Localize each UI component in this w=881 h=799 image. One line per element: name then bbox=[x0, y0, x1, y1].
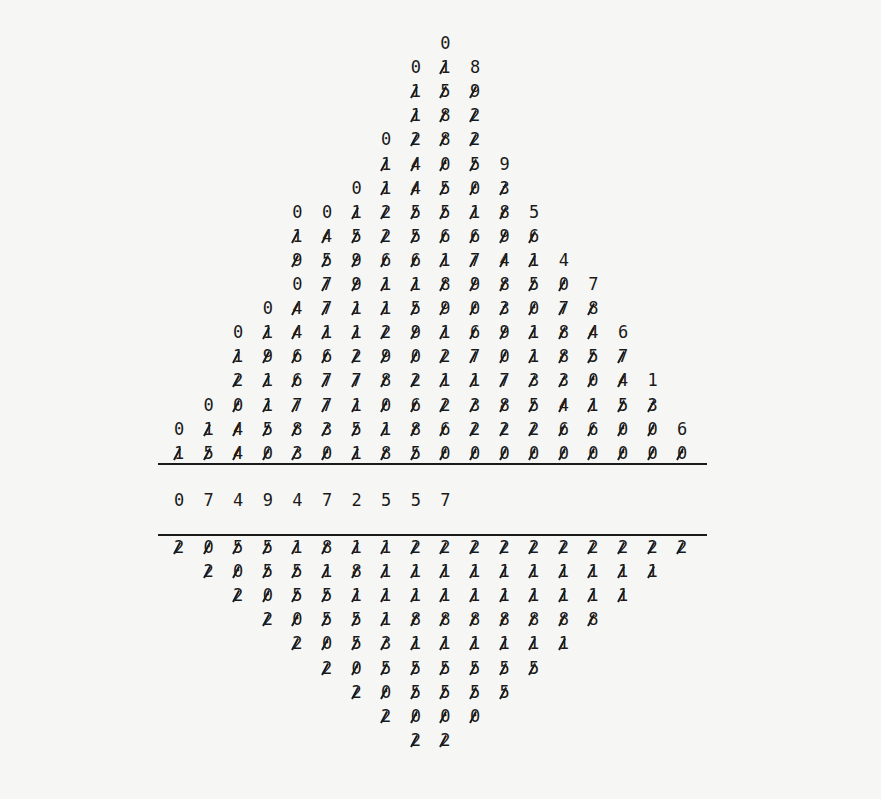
divisor-row-digit: 8 bbox=[406, 608, 426, 630]
dividend-row-digit: 4 bbox=[554, 394, 574, 416]
divisor-row-digit: 0 bbox=[376, 681, 396, 703]
dividend-row-digit: 0 bbox=[406, 345, 426, 367]
dividend-row-digit: 5 bbox=[524, 201, 544, 223]
divisor-row-digit: 1 bbox=[495, 584, 515, 606]
divisor-row-digit: 2 bbox=[169, 536, 189, 558]
dividend-row-digit: 1 bbox=[376, 418, 396, 440]
dividend-row-digit: 5 bbox=[258, 418, 278, 440]
divisor-row-digit: 8 bbox=[465, 608, 485, 630]
dividend-row-digit: 2 bbox=[465, 104, 485, 126]
divisor-row-digit: 1 bbox=[465, 584, 485, 606]
dividend-row-digit: 1 bbox=[376, 273, 396, 295]
divisor-row-digit: 2 bbox=[495, 536, 515, 558]
dividend-row-digit: 1 bbox=[435, 56, 455, 78]
divisor-row-digit: 5 bbox=[376, 657, 396, 679]
dividend-row-digit: 8 bbox=[406, 418, 426, 440]
dividend-row-digit: 0 bbox=[199, 394, 219, 416]
divisor-row-digit: 0 bbox=[465, 705, 485, 727]
dividend-row-digit: 8 bbox=[554, 321, 574, 343]
dividend-row-digit: 9 bbox=[465, 80, 485, 102]
dividend-row-digit: 1 bbox=[199, 418, 219, 440]
dividend-row-digit: 8 bbox=[435, 273, 455, 295]
dividend-row-digit: 3 bbox=[495, 297, 515, 319]
divisor-row-digit: 5 bbox=[495, 657, 515, 679]
dividend-row-digit: 6 bbox=[406, 394, 426, 416]
dividend-row-digit: 9 bbox=[287, 249, 307, 271]
divisor-row-digit: 8 bbox=[347, 560, 367, 582]
divisor-row-digit: 1 bbox=[613, 560, 633, 582]
dividend-row-digit: 0 bbox=[465, 442, 485, 464]
divisor-row-digit: 1 bbox=[317, 560, 337, 582]
dividend-row-digit: 0 bbox=[258, 442, 278, 464]
dividend-row-digit: 9 bbox=[406, 321, 426, 343]
dividend-row-digit: 8 bbox=[495, 394, 515, 416]
dividend-row-digit: 0 bbox=[406, 56, 426, 78]
dividend-row-digit: 5 bbox=[406, 297, 426, 319]
divisor-row-digit: 5 bbox=[435, 681, 455, 703]
dividend-row-digit: 8 bbox=[435, 104, 455, 126]
divisor-row-digit: 2 bbox=[406, 536, 426, 558]
dividend-row-digit: 5 bbox=[524, 273, 544, 295]
divisor-row-digit: 2 bbox=[376, 705, 396, 727]
dividend-row-digit: 1 bbox=[258, 394, 278, 416]
divisor-row-digit: 1 bbox=[554, 560, 574, 582]
dividend-row-digit: 7 bbox=[317, 369, 337, 391]
divisor-row-digit: 5 bbox=[287, 560, 307, 582]
dividend-row-digit: 9 bbox=[465, 273, 485, 295]
divisor-row-digit: 1 bbox=[406, 632, 426, 654]
dividend-row-digit: 8 bbox=[495, 273, 515, 295]
divisor-row-digit: 2 bbox=[347, 681, 367, 703]
dividend-row-digit: 4 bbox=[554, 249, 574, 271]
dividend-row-digit: 2 bbox=[524, 418, 544, 440]
dividend-row-digit: 1 bbox=[406, 80, 426, 102]
divisor-row-digit: 8 bbox=[317, 536, 337, 558]
dividend-row-digit: 7 bbox=[317, 273, 337, 295]
dividend-row-digit: 6 bbox=[465, 225, 485, 247]
dividend-row-digit: 1 bbox=[347, 297, 367, 319]
divisor-row-digit: 8 bbox=[495, 608, 515, 630]
dividend-row-digit: 0 bbox=[643, 418, 663, 440]
dividend-row-digit: 4 bbox=[317, 225, 337, 247]
divisor-row-digit: 5 bbox=[435, 657, 455, 679]
dividend-row-digit: 8 bbox=[554, 345, 574, 367]
divisor-row-digit: 2 bbox=[435, 729, 455, 751]
divisor-row-digit: 1 bbox=[287, 536, 307, 558]
quotient-digit: 0 bbox=[169, 489, 189, 511]
dividend-row-digit: 4 bbox=[287, 321, 307, 343]
dividend-row-digit: 0 bbox=[613, 418, 633, 440]
dividend-row-digit: 0 bbox=[317, 201, 337, 223]
dividend-row-digit: 9 bbox=[258, 345, 278, 367]
divisor-row-digit: 1 bbox=[643, 560, 663, 582]
divisor-row-digit: 2 bbox=[554, 536, 574, 558]
dividend-row-digit: 6 bbox=[287, 345, 307, 367]
divisor-row-digit: 1 bbox=[465, 632, 485, 654]
divisor-row-digit: 5 bbox=[287, 584, 307, 606]
dividend-row-digit: 2 bbox=[465, 128, 485, 150]
quotient-digit: 7 bbox=[199, 489, 219, 511]
dividend-row-digit: 1 bbox=[524, 249, 544, 271]
divisor-row-digit: 2 bbox=[465, 536, 485, 558]
dividend-row-digit: 1 bbox=[643, 369, 663, 391]
dividend-row-digit: 2 bbox=[228, 369, 248, 391]
dividend-row-digit: 9 bbox=[495, 321, 515, 343]
dividend-row-digit: 6 bbox=[583, 418, 603, 440]
dividend-row-digit: 2 bbox=[406, 128, 426, 150]
divisor-row-digit: 0 bbox=[406, 705, 426, 727]
dividend-row-digit: 2 bbox=[347, 345, 367, 367]
dividend-row-digit: 5 bbox=[435, 177, 455, 199]
dividend-row-digit: 0 bbox=[435, 153, 455, 175]
divisor-row-digit: 5 bbox=[228, 536, 248, 558]
divisor-row-digit: 1 bbox=[495, 560, 515, 582]
dividend-row-digit: 5 bbox=[435, 201, 455, 223]
dividend-row-digit: 7 bbox=[465, 249, 485, 271]
dividend-row-digit: 6 bbox=[435, 418, 455, 440]
dividend-row-digit: 6 bbox=[435, 225, 455, 247]
divisor-row-digit: 1 bbox=[406, 584, 426, 606]
dividend-row-digit: 0 bbox=[643, 442, 663, 464]
dividend-row-digit: 0 bbox=[287, 201, 307, 223]
dividend-row-digit: 9 bbox=[347, 273, 367, 295]
dividend-row-digit: 9 bbox=[495, 225, 515, 247]
dividend-row-digit: 3 bbox=[317, 418, 337, 440]
dividend-row-digit: 7 bbox=[613, 345, 633, 367]
dividend-row-digit: 3 bbox=[554, 369, 574, 391]
